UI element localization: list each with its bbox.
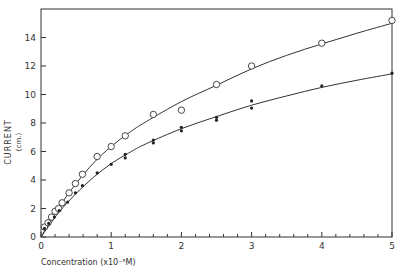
x-axis-ticks: 012345: [38, 232, 395, 251]
open-circle-marker: [178, 107, 184, 113]
y-tick-label: 0: [30, 232, 36, 242]
filled-dot-marker: [96, 171, 99, 174]
filled-dot-marker: [250, 106, 253, 109]
filled-dot-marker: [58, 209, 61, 212]
filled-dot-marker: [215, 116, 218, 119]
data-points: [41, 17, 395, 230]
fit-curve: [41, 23, 392, 237]
x-tick-label: 2: [179, 241, 185, 251]
filled-dot-marker: [180, 129, 183, 132]
open-circle-marker: [122, 133, 128, 139]
filled-dot-marker: [110, 163, 113, 166]
y-tick-label: 14: [25, 33, 37, 43]
filled-dot-marker: [250, 99, 253, 102]
y-tick-label: 4: [30, 175, 36, 185]
x-tick-label: 5: [389, 241, 395, 251]
fit-curve: [41, 74, 392, 237]
filled-dot-marker: [215, 119, 218, 122]
filled-dot-marker: [124, 156, 127, 159]
filled-dot-marker: [124, 153, 127, 156]
filled-dot-marker: [43, 227, 46, 230]
filled-dot-marker: [390, 72, 393, 75]
x-tick-label: 1: [108, 241, 114, 251]
filled-dot-marker: [47, 222, 50, 225]
open-circle-marker: [150, 111, 156, 117]
y-axis-unit: (cm.): [15, 133, 23, 152]
y-tick-label: 6: [30, 147, 36, 157]
y-axis-title: CURRENT: [4, 119, 13, 164]
filled-dot-marker: [74, 191, 77, 194]
open-circle-marker: [213, 81, 219, 87]
y-tick-label: 2: [30, 204, 36, 214]
filled-dot-marker: [180, 126, 183, 129]
open-circle-marker: [319, 40, 325, 46]
y-tick-label: 8: [30, 118, 36, 128]
plot-frame: [41, 9, 392, 237]
open-circle-marker: [59, 200, 65, 206]
filled-dot-marker: [66, 200, 69, 203]
open-circle-marker: [94, 153, 100, 159]
open-circle-marker: [72, 180, 78, 186]
x-tick-label: 3: [249, 241, 255, 251]
open-circle-marker: [108, 143, 114, 149]
filled-dot-marker: [53, 215, 56, 218]
open-circle-marker: [389, 17, 395, 23]
filled-dot-marker: [81, 184, 84, 187]
filled-dot-marker: [320, 84, 323, 87]
open-circle-marker: [248, 63, 254, 69]
filled-dot-marker: [152, 139, 155, 142]
fit-curves: [41, 23, 392, 237]
x-tick-label: 4: [319, 241, 325, 251]
x-axis-title: Concentration (x10⁻⁵M): [41, 258, 136, 267]
y-axis-ticks: 02468101214: [25, 33, 46, 243]
open-circle-marker: [66, 190, 72, 196]
x-tick-label: 0: [38, 241, 44, 251]
y-tick-label: 12: [25, 61, 36, 71]
open-circle-marker: [79, 171, 85, 177]
y-tick-label: 10: [25, 90, 37, 100]
filled-dot-marker: [152, 141, 155, 144]
chart: 012345 02468101214 CURRENT (cm.) Concent…: [0, 0, 400, 273]
